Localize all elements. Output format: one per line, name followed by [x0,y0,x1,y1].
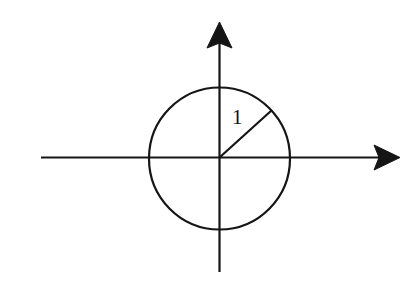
radius-segment [220,110,273,158]
unit-circle-figure: 1 [0,0,415,286]
unit-circle-diagram: 1 [0,0,415,286]
radius-length-label: 1 [232,105,243,129]
